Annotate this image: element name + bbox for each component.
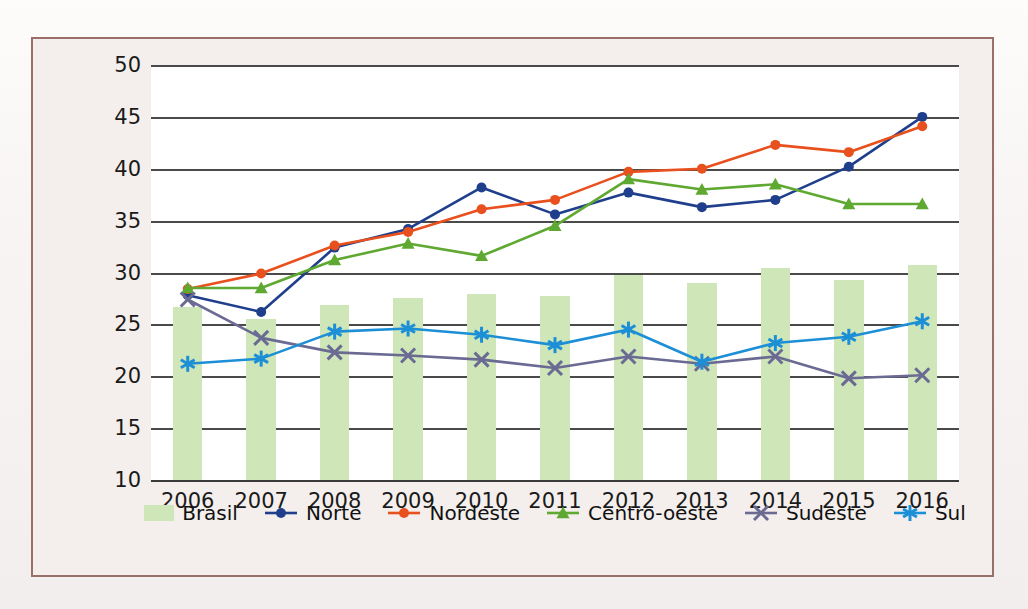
marker-circle (844, 147, 854, 157)
marker-triangle (402, 237, 415, 249)
legend-entry-brasil[interactable]: Brasil (144, 501, 238, 525)
y-tick-label: 45 (114, 105, 141, 129)
legend-swatch-circle-icon (387, 505, 421, 521)
marker-circle (917, 121, 927, 131)
legend-swatch-circle-icon (264, 505, 298, 521)
marker-circle (256, 269, 266, 279)
y-tick-label: 20 (114, 364, 141, 388)
marker-circle (770, 195, 780, 205)
legend-entry-centro-oeste[interactable]: Centro-oeste (546, 501, 718, 525)
y-tick-label: 15 (114, 416, 141, 440)
marker-circle (276, 508, 286, 518)
chart-legend: BrasilNorteNordesteCentro-oesteSudesteSu… (151, 501, 959, 525)
marker-circle (697, 164, 707, 174)
line-series-layer (151, 65, 959, 480)
series-centro-oeste (181, 173, 929, 294)
marker-circle (477, 182, 487, 192)
marker-circle (399, 508, 409, 518)
gridline-10 (151, 480, 959, 482)
legend-label: Brasil (182, 501, 238, 525)
marker-circle (697, 202, 707, 212)
marker-circle (844, 162, 854, 172)
legend-swatch-x-icon (744, 505, 778, 521)
marker-circle (550, 195, 560, 205)
legend-entry-nordeste[interactable]: Nordeste (387, 501, 520, 525)
marker-circle (330, 241, 340, 251)
y-tick-label: 10 (114, 468, 141, 492)
legend-label: Sul (935, 501, 966, 525)
figure-inner: 101520253035404550 200620072008200920102… (33, 39, 992, 575)
legend-entry-sudeste[interactable]: Sudeste (744, 501, 867, 525)
marker-triangle (549, 219, 562, 231)
figure-frame: 101520253035404550 200620072008200920102… (31, 37, 994, 577)
y-tick-label: 35 (114, 209, 141, 233)
marker-circle (770, 140, 780, 150)
legend-swatch-asterisk-icon (893, 505, 927, 521)
series-nordeste (183, 121, 928, 294)
legend-label: Centro-oeste (588, 501, 718, 525)
marker-circle (550, 209, 560, 219)
series-norte (183, 112, 928, 317)
legend-label: Norte (306, 501, 362, 525)
y-tick-label: 30 (114, 261, 141, 285)
marker-circle (477, 204, 487, 214)
marker-circle (917, 112, 927, 122)
legend-entry-norte[interactable]: Norte (264, 501, 362, 525)
marker-circle (256, 307, 266, 317)
legend-label: Nordeste (429, 501, 520, 525)
plot-area: 101520253035404550 200620072008200920102… (151, 65, 959, 480)
y-tick-label: 40 (114, 157, 141, 181)
marker-circle (403, 227, 413, 237)
y-tick-label: 50 (114, 53, 141, 77)
legend-swatch-bar-icon (144, 505, 174, 521)
marker-circle (623, 188, 633, 198)
legend-label: Sudeste (786, 501, 867, 525)
chart-page: 101520253035404550 200620072008200920102… (0, 0, 1028, 609)
y-tick-label: 25 (114, 312, 141, 336)
series-sul (181, 313, 929, 372)
legend-entry-sul[interactable]: Sul (893, 501, 966, 525)
legend-swatch-triangle-icon (546, 505, 580, 521)
